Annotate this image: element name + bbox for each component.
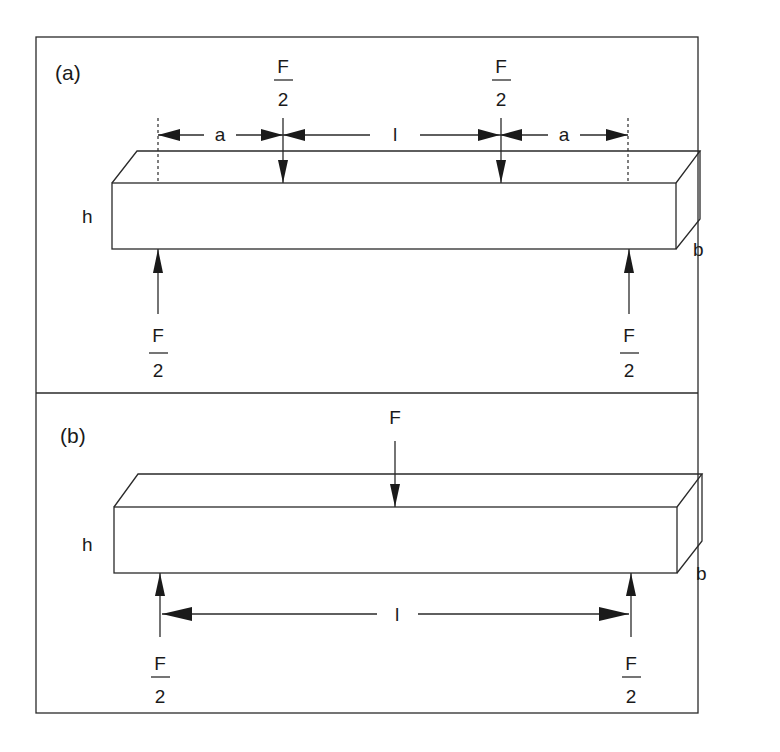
svg-text:F: F (154, 653, 166, 674)
arrowhead-left-icon (162, 607, 192, 621)
svg-text:2: 2 (624, 360, 635, 381)
svg-text:F: F (623, 325, 635, 346)
svg-text:F: F (495, 56, 507, 77)
width-label-a: b (693, 239, 704, 260)
dim-l-label: l (393, 124, 397, 145)
height-label-a: h (82, 206, 93, 227)
svg-text:2: 2 (626, 686, 637, 707)
down-arrow-icon (390, 484, 400, 507)
arrowhead-right-icon (599, 607, 629, 621)
beam-a-front-face (112, 183, 676, 249)
svg-text:F: F (625, 653, 637, 674)
down-arrow-icon (278, 160, 288, 183)
height-label-b: h (82, 534, 93, 555)
beam-b-front-face (114, 507, 677, 573)
up-arrow-icon (155, 573, 165, 596)
beam-a-top-face (112, 151, 700, 183)
beam-b-top-face (114, 474, 702, 507)
svg-text:F: F (152, 325, 164, 346)
up-arrow-icon (626, 573, 636, 596)
arrowhead-left-icon (158, 129, 180, 141)
span-l-label: l (395, 604, 399, 625)
figure-frame (36, 37, 698, 713)
down-arrow-icon (496, 160, 506, 183)
support-left-a: F 2 (149, 249, 168, 381)
dim-a-left-label: a (215, 124, 226, 145)
panel-b: (b) h b F F 2 F 2 (60, 407, 707, 707)
load-top-b: F (389, 407, 401, 507)
beam-a-side-face (676, 151, 700, 249)
beam-b (114, 474, 702, 573)
load-top-right-a: F 2 (492, 56, 511, 183)
up-arrow-icon (624, 249, 634, 273)
svg-text:2: 2 (155, 686, 166, 707)
dim-a-right-label: a (559, 124, 570, 145)
support-right-a: F 2 (620, 249, 639, 381)
panel-a: (a) h b a l a (55, 56, 704, 381)
support-right-b: F 2 (622, 573, 641, 707)
svg-text:2: 2 (496, 89, 507, 110)
bending-test-diagram: (a) h b a l a (0, 0, 780, 752)
svg-text:F: F (389, 407, 401, 428)
load-top-left-a: F 2 (274, 56, 293, 183)
beam-a (112, 151, 700, 249)
panel-b-label: (b) (60, 424, 86, 447)
support-left-b: F 2 (151, 573, 170, 707)
svg-text:2: 2 (153, 360, 164, 381)
svg-text:F: F (277, 56, 289, 77)
arrowhead-right-icon (606, 129, 628, 141)
panel-a-label: (a) (55, 61, 81, 84)
svg-text:2: 2 (278, 89, 289, 110)
width-label-b: b (696, 563, 707, 584)
up-arrow-icon (153, 249, 163, 273)
